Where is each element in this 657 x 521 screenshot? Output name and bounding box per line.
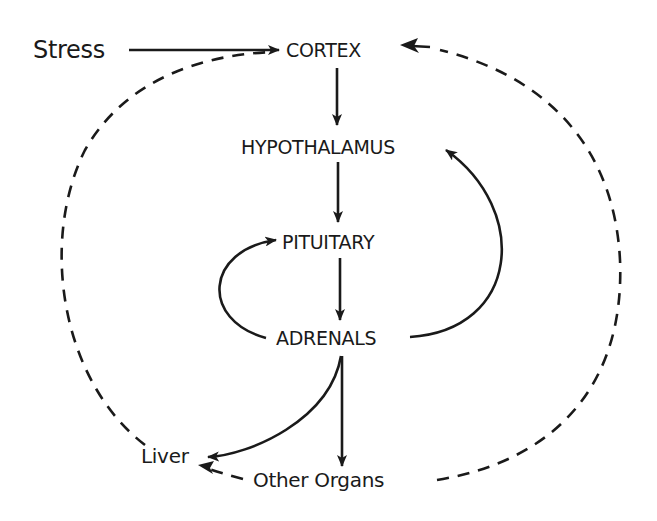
node-other-organs: Other Organs [253,470,384,490]
arrowhead-into-liver-dashed [198,461,214,474]
arrow-adrenals-to-liver [208,356,341,457]
node-pituitary: PITUITARY [282,233,374,252]
node-liver: Liver [141,446,189,466]
node-adrenals: ADRENALS [276,329,376,348]
node-cortex: CORTEX [286,41,361,60]
node-hypothalamus: HYPOTHALAMUS [241,138,395,157]
dashed-arrow-liver-to-cortex [62,52,272,445]
stress-pathway-diagram: Stress CORTEX HYPOTHALAMUS PITUITARY ADR… [0,0,657,521]
node-stress: Stress [33,38,105,62]
diagram-connectors [0,0,657,521]
arrow-adrenals-to-hypothalamus [410,150,502,337]
dashed-arrow-other-organs-to-cortex [437,50,620,480]
arrow-adrenals-to-pituitary [219,240,276,338]
